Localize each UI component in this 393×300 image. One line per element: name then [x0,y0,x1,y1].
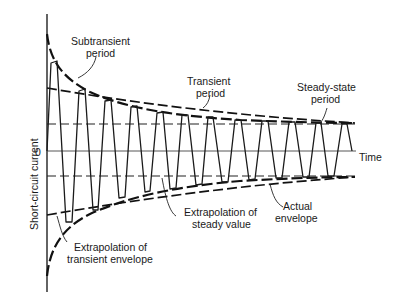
extrap-transient-label-1: Extrapolation of [74,241,147,253]
extrap-steady-label-2: steady value [192,218,251,230]
extrap-steady-label-1: Extrapolation of [184,206,257,218]
actual-envelope-label-1: Actual [283,200,312,212]
time-label: Time [359,151,382,163]
transient-label-1: Transient [187,75,230,87]
subtransient-label-1: Subtransient [71,35,130,47]
origin-label: 0 [35,146,41,158]
steady-state-label-1: Steady-state [297,81,356,93]
transient-label-2: period [196,87,225,99]
extrap-transient-label-2: transient envelope [67,253,153,265]
actual-envelope-label-2: envelope [275,212,318,224]
subtransient-label-2: period [86,47,115,59]
steady-state-label-2: period [311,93,340,105]
leader-actual-envelope [270,184,283,207]
diagram-canvas: Short-circuit current 0 Time Subtransien… [0,0,393,300]
leader-subtransient [78,57,96,78]
short-circuit-current-diagram: Short-circuit current 0 Time Subtransien… [0,0,393,300]
